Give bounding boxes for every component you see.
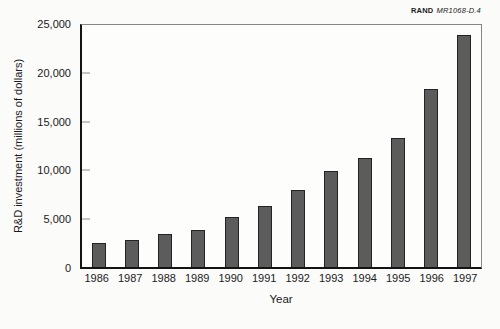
x-tick-label: 1988 xyxy=(147,272,181,284)
x-tick-label: 1996 xyxy=(415,272,449,284)
figure-tag: RANDMR1068-D.4 xyxy=(411,6,481,15)
y-tick-label: 25,000 xyxy=(37,18,71,30)
bar-slot-1992 xyxy=(282,25,315,267)
bar-1990 xyxy=(225,217,239,267)
y-tick-label: 5,000 xyxy=(43,213,71,225)
bars xyxy=(82,25,481,267)
plot-area xyxy=(80,24,482,269)
figure-tag-brand: RAND xyxy=(411,6,433,15)
figure-tag-id: MR1068-D.4 xyxy=(436,6,481,15)
bar-slot-1988 xyxy=(149,25,182,267)
bar-slot-1989 xyxy=(182,25,215,267)
x-tick-label: 1993 xyxy=(315,272,349,284)
x-tick-label: 1991 xyxy=(248,272,282,284)
x-tick-label: 1992 xyxy=(281,272,315,284)
bar-1992 xyxy=(291,190,305,267)
bar-1987 xyxy=(125,240,139,267)
y-axis-tick-labels: 05,00010,00015,00020,00025,000 xyxy=(0,24,71,268)
bar-1997 xyxy=(457,35,471,267)
x-axis-labels: 1986198719881989199019911992199319941995… xyxy=(80,272,482,284)
bar-slot-1991 xyxy=(248,25,281,267)
bar-slot-1990 xyxy=(215,25,248,267)
bar-1993 xyxy=(324,171,338,267)
x-tick-label: 1995 xyxy=(382,272,416,284)
bar-slot-1997 xyxy=(448,25,481,267)
bar-slot-1993 xyxy=(315,25,348,267)
bar-slot-1996 xyxy=(415,25,448,267)
y-tick-label: 15,000 xyxy=(37,116,71,128)
y-tick-label: 10,000 xyxy=(37,164,71,176)
bar-1994 xyxy=(358,158,372,267)
bar-slot-1994 xyxy=(348,25,381,267)
x-tick-label: 1986 xyxy=(80,272,114,284)
bar-1986 xyxy=(92,243,106,267)
x-tick-label: 1989 xyxy=(181,272,215,284)
bar-1991 xyxy=(258,206,272,267)
x-tick-label: 1987 xyxy=(114,272,148,284)
bar-1989 xyxy=(191,230,205,267)
x-tick-label: 1997 xyxy=(449,272,483,284)
x-tick-label: 1994 xyxy=(348,272,382,284)
y-tick-label: 20,000 xyxy=(37,67,71,79)
x-axis-title: Year xyxy=(269,293,292,305)
bar-1996 xyxy=(424,89,438,267)
y-tick-label: 0 xyxy=(65,262,71,274)
bar-slot-1995 xyxy=(381,25,414,267)
bar-1995 xyxy=(391,138,405,267)
chart-figure: RANDMR1068-D.4 R&D investment (millions … xyxy=(0,0,500,329)
bar-1988 xyxy=(158,234,172,267)
bar-slot-1987 xyxy=(115,25,148,267)
x-tick-label: 1990 xyxy=(214,272,248,284)
bar-slot-1986 xyxy=(82,25,115,267)
